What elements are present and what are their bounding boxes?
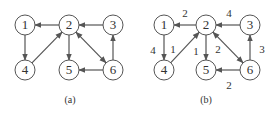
node-label: 6: [110, 62, 117, 77]
node-3: 3: [240, 15, 260, 35]
node-2: 2: [196, 15, 216, 35]
edge-4-2: [32, 32, 62, 63]
node-3: 3: [103, 15, 123, 35]
node-label: 3: [110, 17, 117, 32]
node-label: 2: [66, 17, 73, 32]
node-6: 6: [240, 60, 260, 80]
node-label: 4: [22, 62, 29, 77]
node-5: 5: [59, 60, 79, 80]
node-label: 1: [161, 17, 168, 32]
node-4: 4: [154, 60, 174, 80]
node-label: 4: [161, 62, 168, 77]
node-4: 4: [15, 60, 35, 80]
node-5: 5: [196, 60, 216, 80]
edge-weight-label: 3: [259, 43, 265, 55]
node-label: 1: [22, 17, 29, 32]
edge-weight-label: 4: [226, 7, 232, 19]
edge-weight-label: 2: [226, 79, 232, 91]
graph-figure: 123456(a) 24112432123456(b): [0, 0, 274, 114]
node-2: 2: [59, 15, 79, 35]
node-1: 1: [154, 15, 174, 35]
figure-caption: (a): [64, 94, 75, 106]
edge-weight-label: 2: [182, 7, 188, 19]
edge-weight-label: 2: [215, 43, 221, 55]
node-label: 6: [247, 62, 254, 77]
graph-a: 123456(a): [15, 15, 123, 106]
node-1: 1: [15, 15, 35, 35]
node-label: 2: [203, 17, 210, 32]
node-label: 5: [203, 62, 210, 77]
edge-2-6: [76, 32, 106, 63]
node-label: 5: [66, 62, 73, 77]
node-label: 3: [247, 17, 254, 32]
graph-b-weighted: 24112432123456(b): [150, 7, 265, 107]
edge-weight-label: 4: [150, 44, 156, 56]
node-6: 6: [103, 60, 123, 80]
edge-weight-label: 1: [193, 45, 199, 57]
edge-weight-label: 1: [170, 43, 176, 55]
figure-caption: (b): [200, 94, 212, 106]
